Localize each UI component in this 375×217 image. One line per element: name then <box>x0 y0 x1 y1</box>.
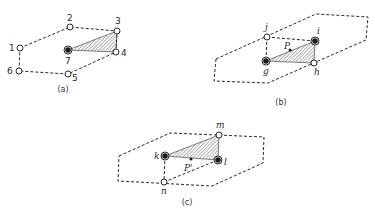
node-label: n <box>161 186 167 196</box>
filled-node-core <box>263 58 269 64</box>
hatched-triangle <box>68 31 117 52</box>
point-marker <box>190 158 193 161</box>
node-label: 5 <box>72 73 78 83</box>
node-label: i <box>317 26 320 36</box>
open-node-m <box>216 132 222 138</box>
hatched-triangle <box>165 135 219 160</box>
node-label: 1 <box>9 43 15 53</box>
open-node-h <box>311 60 317 66</box>
node-label: 6 <box>7 66 13 76</box>
panel-c: mnklP'(c) <box>118 120 264 207</box>
panel-caption: (c) <box>182 198 193 207</box>
dashed-outline <box>214 14 368 83</box>
node-label: g <box>263 66 269 76</box>
panel-b: jhigP(b) <box>214 14 368 107</box>
node-label: 2 <box>67 13 73 23</box>
open-node-4 <box>113 49 119 55</box>
filled-node-core <box>162 153 168 159</box>
open-node-3 <box>114 28 120 34</box>
panel-caption: (a) <box>57 85 68 94</box>
node-label: 3 <box>115 16 121 26</box>
point-label: P' <box>183 163 193 173</box>
dashed-edge <box>267 37 315 41</box>
node-label: l <box>224 157 227 167</box>
node-label: k <box>154 151 159 161</box>
panel-caption: (b) <box>275 98 286 107</box>
open-node-1 <box>17 45 23 51</box>
lattice-diagram-figure: 1234567(a) jhigP(b) mnklP'(c) <box>0 0 375 217</box>
node-label: j <box>263 22 268 32</box>
point-label: P <box>283 41 291 51</box>
open-node-5 <box>65 71 71 77</box>
open-node-2 <box>67 24 73 30</box>
node-label: 7 <box>65 56 71 66</box>
panel-a: 1234567(a) <box>7 13 127 94</box>
filled-node-core <box>65 47 71 53</box>
node-label: h <box>314 67 320 77</box>
filled-node-core <box>312 38 318 44</box>
node-label: 4 <box>121 48 127 58</box>
open-node-n <box>161 179 167 185</box>
filled-node-core <box>215 157 221 163</box>
node-label: m <box>216 120 225 130</box>
open-node-6 <box>16 68 22 74</box>
open-node-j <box>264 34 270 40</box>
hatched-triangle <box>266 41 315 63</box>
